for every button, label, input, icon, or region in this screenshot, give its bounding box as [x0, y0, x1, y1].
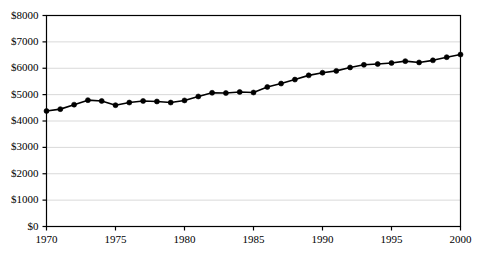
data-point-1991 — [334, 68, 339, 73]
data-point-1979 — [168, 100, 173, 105]
x-axis-ticks — [47, 227, 461, 231]
x-axis-tick-label-2000: 2000 — [437, 234, 484, 245]
y-axis-tick-label-4000: $4000 — [0, 115, 39, 126]
data-point-1973 — [85, 98, 90, 103]
data-point-1977 — [141, 98, 146, 103]
data-point-1986 — [265, 84, 270, 89]
data-point-1971 — [58, 107, 63, 112]
data-point-1993 — [361, 62, 366, 67]
data-point-1982 — [210, 90, 215, 95]
data-point-2000 — [458, 52, 463, 57]
data-point-1983 — [223, 91, 228, 96]
data-point-1999 — [444, 55, 449, 60]
y-axis-tick-label-1000: $1000 — [0, 194, 39, 205]
x-axis-tick-label-1980: 1980 — [161, 234, 209, 245]
data-point-1992 — [348, 65, 353, 70]
data-point-1976 — [127, 100, 132, 105]
data-point-1984 — [237, 89, 242, 94]
data-point-1997 — [417, 60, 422, 65]
data-point-1985 — [251, 90, 256, 95]
series-line — [47, 55, 461, 111]
line-chart-plot — [0, 0, 484, 261]
y-axis-tick-label-3000: $3000 — [0, 141, 39, 152]
x-axis-tick-label-1985: 1985 — [230, 234, 278, 245]
data-point-1987 — [279, 81, 284, 86]
data-point-1996 — [403, 59, 408, 64]
data-point-1974 — [99, 98, 104, 103]
y-axis-tick-label-5000: $5000 — [0, 89, 39, 100]
y-axis-tick-label-0: $0 — [0, 221, 39, 232]
data-point-1972 — [72, 102, 77, 107]
x-axis-tick-label-1975: 1975 — [92, 234, 140, 245]
data-point-1978 — [154, 99, 159, 104]
data-point-1980 — [182, 98, 187, 103]
data-point-1975 — [113, 103, 118, 108]
series-path — [47, 55, 461, 111]
x-axis-tick-label-1995: 1995 — [368, 234, 416, 245]
x-axis-tick-label-1970: 1970 — [23, 234, 71, 245]
y-axis-tick-label-6000: $6000 — [0, 62, 39, 73]
data-point-1981 — [196, 94, 201, 99]
gridlines — [47, 16, 461, 201]
y-axis-tick-label-8000: $8000 — [0, 10, 39, 21]
data-point-1989 — [306, 73, 311, 78]
y-axis-tick-label-2000: $2000 — [0, 168, 39, 179]
y-axis-tick-label-7000: $7000 — [0, 36, 39, 47]
data-point-1995 — [389, 60, 394, 65]
data-point-1990 — [320, 70, 325, 75]
data-point-1998 — [430, 58, 435, 63]
x-axis-tick-label-1990: 1990 — [299, 234, 347, 245]
chart-container: $0$1000$2000$3000$4000$5000$6000$7000$80… — [0, 0, 484, 261]
data-point-1970 — [44, 108, 49, 113]
data-point-1994 — [375, 62, 380, 67]
data-point-1988 — [292, 77, 297, 82]
